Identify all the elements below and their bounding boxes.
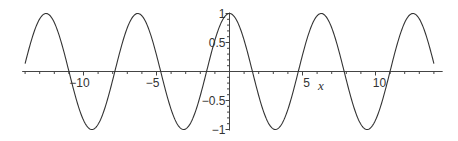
x-tick-label: 10 [373, 76, 387, 90]
x-tick-label: −10 [69, 76, 90, 90]
cosine-plot: −10−551010.5−0.5−1 x [0, 0, 458, 141]
y-tick-label: 1 [219, 7, 226, 21]
y-tick-label: −1 [212, 123, 226, 137]
x-tick-label: −5 [146, 76, 160, 90]
axes [22, 13, 442, 131]
x-axis-label: x [317, 78, 324, 93]
y-tick-label: −0.5 [202, 94, 226, 108]
x-tick-label: 5 [303, 76, 310, 90]
y-tick-label: 0.5 [209, 36, 226, 50]
